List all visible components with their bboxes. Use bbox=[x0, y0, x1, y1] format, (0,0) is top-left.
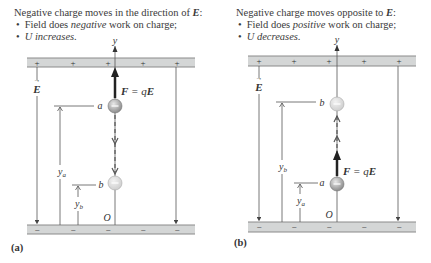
positive-plate-a: + + + + + bbox=[27, 58, 195, 68]
field-label-b: E bbox=[254, 81, 262, 93]
vector-arrow-glyph: → bbox=[256, 74, 263, 82]
minus-sign: − bbox=[174, 225, 179, 235]
minus-sign: − bbox=[140, 225, 145, 235]
axis-label-y-a: y bbox=[112, 35, 118, 46]
origin-label-a: O bbox=[103, 212, 110, 223]
plus-sign: + bbox=[361, 56, 366, 66]
plus-sign: + bbox=[256, 56, 261, 66]
negative-plate-b: − − − − − bbox=[248, 222, 416, 232]
positive-plate-b: + + + + + bbox=[248, 56, 416, 66]
origin-label-b: O bbox=[325, 209, 332, 220]
minus-sign: − bbox=[396, 222, 401, 232]
force-label-a: F = qE bbox=[120, 85, 154, 97]
plus-sign: + bbox=[174, 58, 179, 68]
plus-sign: + bbox=[140, 58, 145, 68]
minus-sign: − bbox=[291, 222, 296, 232]
minus-sign: − bbox=[70, 225, 75, 235]
plus-sign: + bbox=[291, 56, 296, 66]
point-label-a: a bbox=[98, 100, 103, 111]
panel-b: + + + + + − − − − − E → y O bbox=[248, 34, 416, 232]
plus-sign: + bbox=[34, 58, 39, 68]
plus-sign: + bbox=[396, 56, 401, 66]
minus-sign: − bbox=[326, 222, 331, 232]
axis-label-y-b: y bbox=[334, 34, 340, 45]
panel-label-a: (a) bbox=[11, 242, 23, 253]
minus-sign: − bbox=[105, 225, 110, 235]
point-label-a: a bbox=[320, 177, 325, 188]
negative-plate-a: − − − − − bbox=[27, 225, 195, 235]
force-label-b: F = qE bbox=[342, 165, 376, 177]
plus-sign: + bbox=[105, 58, 110, 68]
plus-sign: + bbox=[70, 58, 75, 68]
diagram-canvas: + + + + + − − − − − E → y O F = q bbox=[0, 0, 431, 263]
panel-a: + + + + + − − − − − E → y O F = q bbox=[27, 35, 195, 235]
point-label-b: b bbox=[99, 179, 104, 190]
point-label-b: b bbox=[320, 97, 325, 108]
minus-sign: − bbox=[34, 225, 39, 235]
panel-label-b: (b) bbox=[234, 237, 247, 248]
plus-sign: + bbox=[326, 56, 331, 66]
field-label-a: E bbox=[32, 83, 40, 95]
vector-arrow-glyph: → bbox=[34, 76, 41, 84]
minus-sign: − bbox=[361, 222, 366, 232]
minus-sign: − bbox=[256, 222, 261, 232]
